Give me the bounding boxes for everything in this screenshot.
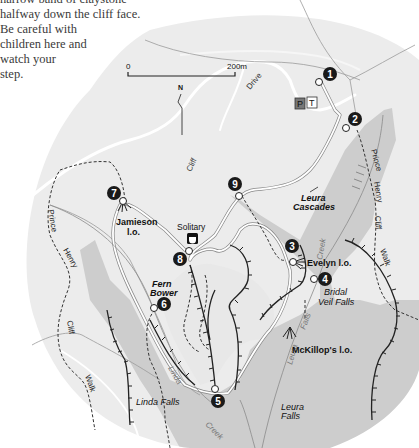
marker-4[interactable]: 4 [318, 272, 332, 286]
svg-text:T: T [309, 98, 315, 108]
north-label: N [178, 84, 183, 91]
marker-5[interactable]: 5 [211, 394, 225, 408]
marker-3[interactable]: 3 [285, 239, 299, 253]
svg-text:7: 7 [111, 188, 117, 199]
svg-text:Cliff: Cliff [373, 215, 383, 230]
marker-1[interactable]: 1 [323, 67, 337, 81]
svg-text:6: 6 [161, 299, 167, 310]
cafe-icon [187, 233, 198, 244]
scale-start-label: 0 [126, 62, 131, 71]
toilets-icon: T [307, 97, 317, 108]
svg-text:4: 4 [322, 274, 328, 285]
svg-text:Bower: Bower [150, 288, 178, 298]
svg-text:P: P [297, 99, 303, 109]
svg-text:3: 3 [289, 241, 295, 252]
svg-text:l.o.: l.o. [127, 227, 140, 237]
svg-text:Cascades: Cascades [293, 202, 335, 212]
place-mckillops: McKillop's l.o. [292, 345, 352, 355]
marker-8[interactable]: 8 [173, 252, 187, 266]
marker-2[interactable]: 2 [348, 112, 362, 126]
svg-text:Falls: Falls [281, 411, 301, 421]
place-linda-falls: Linda Falls [136, 397, 180, 407]
svg-text:Jamieson: Jamieson [116, 217, 158, 227]
walk-map: 0 200m N P T Drive Cliff Prince Henry Cl… [0, 0, 419, 448]
svg-text:9: 9 [232, 179, 238, 190]
svg-text:5: 5 [215, 396, 221, 407]
svg-text:Veil Falls: Veil Falls [318, 297, 355, 307]
svg-text:2: 2 [352, 114, 358, 125]
place-evelyn: Evelyn l.o. [307, 258, 352, 268]
scale-end-label: 200m [227, 62, 247, 71]
svg-text:8: 8 [177, 254, 183, 265]
parking-icon: P [295, 98, 305, 109]
marker-6[interactable]: 6 [157, 297, 171, 311]
marker-9[interactable]: 9 [228, 177, 242, 191]
marker-7[interactable]: 7 [107, 186, 121, 200]
svg-text:1: 1 [327, 69, 333, 80]
place-solitary: Solitary [177, 222, 206, 232]
svg-text:Bridal: Bridal [324, 287, 348, 297]
